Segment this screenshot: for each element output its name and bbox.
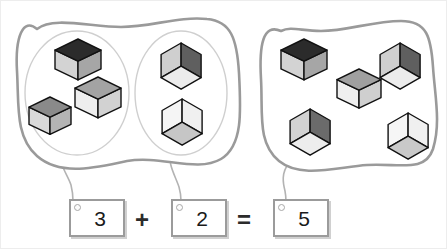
addend-1-value: 3 — [88, 208, 106, 229]
sum-value: 5 — [292, 208, 310, 229]
equals-operator: = — [237, 208, 251, 232]
pin-circle-icon — [176, 204, 183, 211]
addend-1-box[interactable]: 3 — [69, 199, 125, 237]
connector-line — [283, 163, 289, 202]
sum-box[interactable]: 5 — [273, 199, 329, 237]
plus-operator: + — [135, 208, 149, 232]
pin-circle-icon — [278, 204, 285, 211]
worksheet-canvas: 3 + 2 = 5 — [0, 0, 447, 249]
addend-2-value: 2 — [190, 208, 208, 229]
pin-circle-icon — [74, 204, 81, 211]
addend-2-box[interactable]: 2 — [171, 199, 227, 237]
